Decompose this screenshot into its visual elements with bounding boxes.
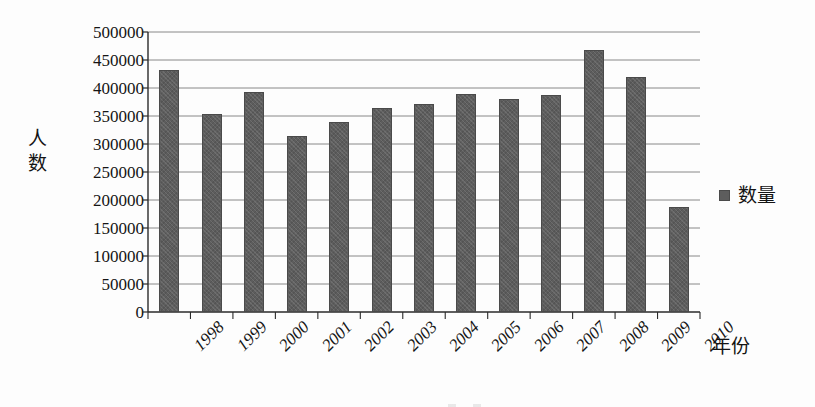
x-axis-tick-labels: 1998199920002001200220032004200520062007…: [148, 312, 708, 382]
bar: [584, 50, 604, 312]
x-axis-tick-label: 1998: [191, 318, 227, 354]
bar: [372, 108, 392, 312]
bar: [287, 136, 307, 312]
bar: [626, 77, 646, 312]
x-axis-tick-label: 1999: [234, 318, 270, 354]
x-axis-tick-label: 2008: [616, 318, 652, 354]
y-axis-tick-label: 100000: [54, 248, 144, 265]
bar: [414, 104, 434, 312]
bar-chart: 人 数 500000450000400000350000300000250000…: [0, 0, 815, 407]
x-axis-title: 年份: [712, 337, 750, 356]
y-axis-tick-label: 50000: [54, 276, 144, 293]
bar: [669, 207, 689, 312]
bar: [499, 99, 519, 312]
bar: [456, 94, 476, 312]
x-axis-tick-label: 2004: [446, 318, 482, 354]
y-axis-tick-label: 350000: [54, 108, 144, 125]
x-axis-tick-label: 2007: [573, 318, 609, 354]
y-axis-tick-label: 450000: [54, 52, 144, 69]
y-axis-tick-label: 400000: [54, 80, 144, 97]
y-axis-tick-label: 300000: [54, 136, 144, 153]
legend-swatch-icon: [719, 190, 730, 201]
y-axis-tick-label: 150000: [54, 220, 144, 237]
legend-label: 数量: [738, 186, 776, 205]
x-axis-tick-label: 2009: [658, 318, 694, 354]
y-axis-title: 人 数: [24, 126, 50, 176]
x-axis-tick-label: 2005: [488, 318, 524, 354]
x-axis-tick-label: 2000: [276, 318, 312, 354]
x-axis-tick-label: 2001: [319, 318, 355, 354]
y-axis-tick-label: 250000: [54, 164, 144, 181]
bar: [541, 95, 561, 312]
bar: [159, 70, 179, 312]
x-axis-tick-label: 2006: [531, 318, 567, 354]
plot-area: [148, 32, 700, 312]
x-axis-tick-label: 2002: [361, 318, 397, 354]
y-axis-tick-label: 500000: [54, 24, 144, 41]
y-axis-tick-label: 200000: [54, 192, 144, 209]
bar: [329, 122, 349, 312]
bar: [202, 114, 222, 312]
x-axis-tick-label: 2003: [403, 318, 439, 354]
y-axis-title-char-1: 人: [24, 126, 50, 151]
y-axis-title-char-2: 数: [24, 151, 50, 176]
legend: 数量: [719, 186, 776, 205]
y-axis-tick-label: 0: [54, 304, 144, 321]
y-axis-tick-labels: 5000004500004000003500003000002500002000…: [54, 0, 144, 407]
bar: [244, 92, 264, 312]
